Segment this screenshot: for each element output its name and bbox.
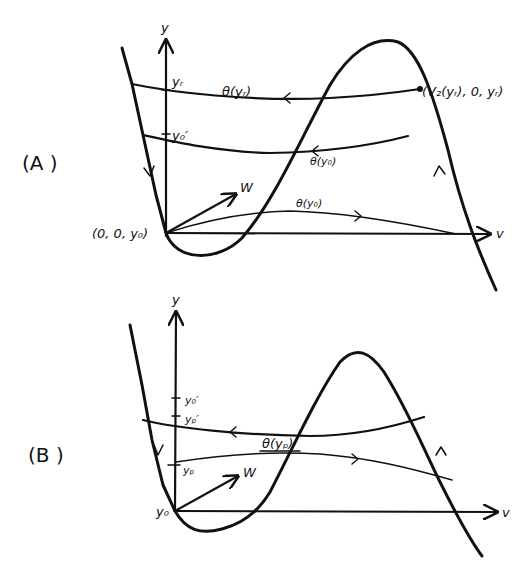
panel-a-tick-y0p-label: y₀′ <box>171 128 188 143</box>
panel-b-v-axis <box>175 511 497 512</box>
panel-b-y-axis-label: y <box>171 292 180 307</box>
panel-a-origin-label: (0, 0, y₀) <box>92 226 148 241</box>
panel-a-orbit-low <box>166 211 456 234</box>
panel-b-left-branch <box>130 325 175 511</box>
phase-portrait-figure: (A ) y v θ(yᵣ) (V₂(yᵣ), 0, yᵣ) θ(y₀) θ(y… <box>0 0 532 568</box>
panel-b-label: (B ) <box>28 443 64 467</box>
panel-a-y-axis-label: y <box>160 20 169 35</box>
panel-b-orbit-low <box>176 453 452 480</box>
panel-a-v-axis-label: v <box>496 226 504 241</box>
panel-b-tick-yp-label: yₚ <box>182 464 195 477</box>
panel-b: (B ) y v θ(yₚ) W y₀′ yₚ′ yₚ y₀ <box>28 292 510 556</box>
panel-b-origin-label: y₀ <box>155 504 170 519</box>
panel-a-up-arrow <box>434 166 445 176</box>
panel-a-v-axis <box>166 233 490 234</box>
panel-b-w-label: W <box>243 465 257 480</box>
panel-a-orbit-low-label: θ(y₀) <box>296 197 322 210</box>
panel-a-orbit-mid-label: θ(y₀) <box>310 155 336 168</box>
panel-a-point-label: (V₂(yᵣ), 0, yᵣ) <box>422 84 503 99</box>
panel-a-orbit-top-label: θ(yᵣ) <box>222 84 251 99</box>
panel-b-orbit-label: θ(yₚ) <box>262 436 293 451</box>
panel-a-left-branch <box>122 48 166 233</box>
panel-a-label: (A ) <box>22 151 58 175</box>
panel-b-tick-y0p-label: y₀′ <box>184 394 199 407</box>
panel-b-tick-ypp-label: yₚ′ <box>184 413 199 426</box>
panel-a-tick-yr-label: yᵣ <box>171 74 184 89</box>
panel-b-v-axis-label: v <box>502 505 510 520</box>
panel-b-up-arrow <box>436 447 446 455</box>
panel-a: (A ) y v θ(yᵣ) (V₂(yᵣ), 0, yᵣ) θ(y₀) θ(y… <box>22 20 504 290</box>
panel-a-w-label: W <box>240 180 254 195</box>
panel-a-w-vector <box>166 194 236 233</box>
panel-b-y-axis <box>175 312 176 511</box>
panel-b-w-vector <box>175 476 238 511</box>
panel-b-orbit-low-arrow <box>352 454 358 464</box>
